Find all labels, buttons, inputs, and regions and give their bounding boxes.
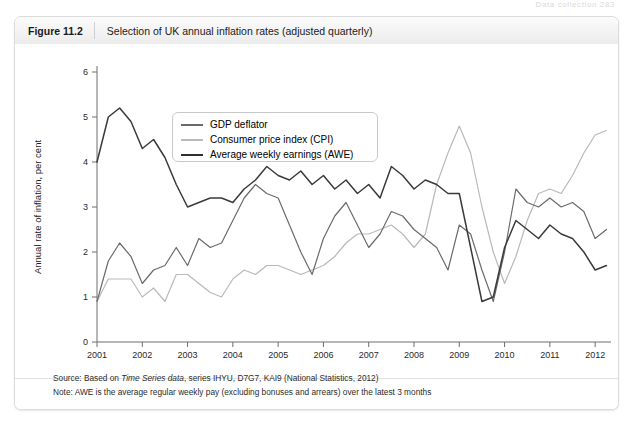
page-root: Data collection 283 Figure 11.2 Selectio…	[0, 0, 633, 423]
legend-swatch-cpi	[181, 139, 203, 141]
figure-caption: Selection of UK annual inflation rates (…	[107, 25, 373, 37]
legend-swatch-gdp-deflator	[181, 124, 203, 126]
svg-text:0: 0	[83, 337, 88, 347]
svg-text:5: 5	[83, 112, 88, 122]
figure-number: Figure 11.2	[28, 25, 83, 37]
legend-item-cpi: Consumer price index (CPI)	[181, 133, 369, 147]
svg-text:Annual rate of inflation, per: Annual rate of inflation, per cent	[32, 140, 43, 275]
svg-text:1: 1	[83, 292, 88, 302]
chart-plot-area: 0123456200120022003200420052006200720082…	[15, 44, 618, 409]
legend-swatch-awe	[181, 154, 203, 156]
svg-text:2002: 2002	[132, 350, 152, 360]
figure-notes: Source: Based on Time Series data, serie…	[15, 373, 618, 401]
svg-text:2: 2	[83, 247, 88, 257]
svg-text:2005: 2005	[268, 350, 288, 360]
legend-label-gdp-deflator: GDP deflator	[210, 120, 268, 130]
source-prefix: Source: Based on	[53, 373, 121, 383]
awe-definition-note: Note: AWE is the average regular weekly …	[53, 387, 618, 397]
svg-text:4: 4	[83, 157, 88, 167]
svg-text:2001: 2001	[87, 350, 107, 360]
legend-label-awe: Average weekly earnings (AWE)	[210, 150, 353, 160]
page-running-header: Data collection 283	[536, 0, 615, 9]
svg-text:2011: 2011	[540, 350, 559, 360]
legend-label-cpi: Consumer price index (CPI)	[210, 135, 333, 145]
legend-item-awe: Average weekly earnings (AWE)	[181, 148, 369, 162]
svg-text:2007: 2007	[359, 350, 379, 360]
svg-text:2010: 2010	[495, 350, 515, 360]
source-italic-title: Time Series data	[121, 373, 184, 383]
svg-text:2004: 2004	[223, 350, 243, 360]
figure-title-bar: Figure 11.2 Selection of UK annual infla…	[15, 17, 618, 45]
svg-text:2003: 2003	[178, 350, 198, 360]
legend-item-gdp-deflator: GDP deflator	[181, 118, 369, 132]
svg-text:2008: 2008	[404, 350, 424, 360]
line-chart: 0123456200120022003200420052006200720082…	[15, 44, 619, 374]
svg-text:2009: 2009	[449, 350, 469, 360]
chart-legend: GDP deflator Consumer price index (CPI) …	[172, 112, 378, 162]
svg-text:2006: 2006	[313, 350, 333, 360]
svg-text:3: 3	[83, 202, 88, 212]
svg-text:2012: 2012	[585, 350, 605, 360]
source-note: Source: Based on Time Series data, serie…	[53, 373, 618, 383]
source-suffix: , series IHYU, D7G7, KAI9 (National Stat…	[184, 373, 379, 383]
title-divider	[94, 22, 95, 39]
figure-card: Figure 11.2 Selection of UK annual infla…	[14, 16, 619, 410]
svg-text:6: 6	[83, 67, 88, 77]
